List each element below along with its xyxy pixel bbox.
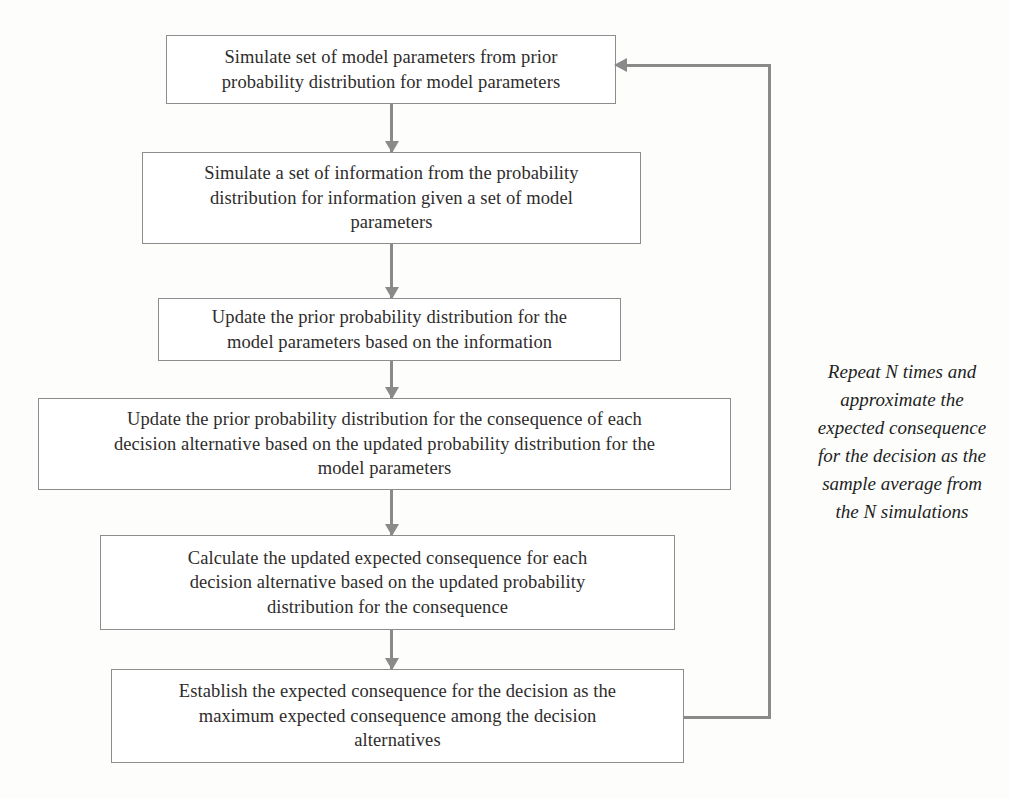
- process-node-update-prior-model-parameters[interactable]: Update the prior probability distributio…: [158, 298, 621, 361]
- feedback-loop-segment-bottom: [684, 716, 771, 719]
- feedback-loop-segment-top: [626, 64, 771, 67]
- arrowhead-icon: [385, 524, 399, 536]
- process-node-establish-expected-consequence[interactable]: Establish the expected consequence for t…: [111, 669, 684, 763]
- arrowhead-icon: [385, 387, 399, 399]
- arrowhead-icon: [385, 141, 399, 153]
- loop-caption: Repeat N times and approximate the expec…: [793, 358, 1010, 526]
- arrow-down-icon-node3-to-node4: [390, 361, 393, 398]
- arrowhead-icon: [385, 287, 399, 299]
- arrow-down-icon-node4-to-node5: [390, 490, 393, 535]
- arrow-down-icon-node1-to-node2: [390, 104, 393, 152]
- process-node-calculate-expected-consequence[interactable]: Calculate the updated expected consequen…: [100, 535, 675, 630]
- feedback-loop-segment-right: [768, 64, 771, 719]
- node-label: Update the prior probability distributio…: [202, 305, 577, 354]
- flowchart-canvas: Simulate set of model parameters from pr…: [0, 0, 1010, 798]
- arrow-left-icon-feedback-loop: [614, 58, 627, 72]
- node-label: Simulate set of model parameters from pr…: [212, 45, 570, 94]
- node-label: Update the prior probability distributio…: [104, 407, 665, 480]
- node-label: Establish the expected consequence for t…: [169, 679, 626, 752]
- arrowhead-icon: [385, 658, 399, 670]
- process-node-simulate-information[interactable]: Simulate a set of information from the p…: [142, 152, 641, 244]
- arrow-down-icon-node5-to-node6: [390, 630, 393, 669]
- node-label: Simulate a set of information from the p…: [194, 161, 588, 234]
- process-node-update-prior-consequence[interactable]: Update the prior probability distributio…: [38, 398, 731, 490]
- process-node-simulate-model-parameters[interactable]: Simulate set of model parameters from pr…: [166, 35, 616, 104]
- arrow-down-icon-node2-to-node3: [390, 244, 393, 298]
- node-label: Calculate the updated expected consequen…: [178, 546, 598, 619]
